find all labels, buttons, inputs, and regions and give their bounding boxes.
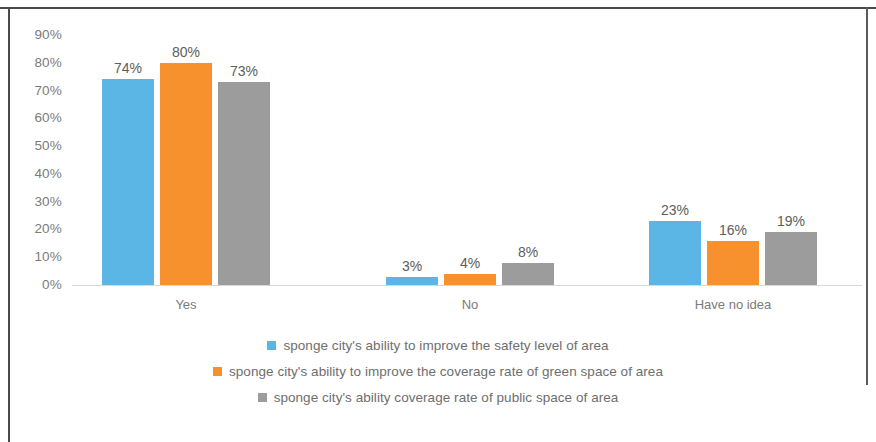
bar-rect: [386, 277, 438, 285]
y-axis-tick-label: 20%: [14, 222, 62, 236]
bar-value-label: 3%: [402, 259, 422, 273]
y-axis-tick-label: 50%: [14, 139, 62, 153]
legend-item[interactable]: sponge city's ability coverage rate of p…: [0, 384, 876, 410]
bar[interactable]: 19%: [765, 232, 817, 285]
bar[interactable]: 80%: [160, 63, 212, 285]
y-axis-tick-label: 70%: [14, 84, 62, 98]
bar[interactable]: 8%: [502, 263, 554, 285]
bar-value-label: 80%: [172, 45, 200, 59]
bar[interactable]: 73%: [218, 82, 270, 285]
bar-rect: [218, 82, 270, 285]
legend-item-inner: sponge city's ability to improve the cov…: [213, 364, 663, 379]
legend-item-inner: sponge city's ability to improve the saf…: [267, 338, 608, 353]
bar-rect: [444, 274, 496, 285]
bar-rect: [160, 63, 212, 285]
bar-rect: [502, 263, 554, 285]
bar-rect: [707, 241, 759, 285]
legend-swatch-icon: [213, 367, 222, 376]
x-axis-category-label: Have no idea: [643, 297, 823, 312]
bar-value-label: 73%: [230, 64, 258, 78]
legend-item-inner: sponge city's ability coverage rate of p…: [258, 390, 619, 405]
y-axis-tick-label: 90%: [14, 28, 62, 42]
legend-item-label: sponge city's ability to improve the saf…: [283, 338, 608, 353]
bar[interactable]: 3%: [386, 277, 438, 285]
legend-item[interactable]: sponge city's ability to improve the cov…: [0, 358, 876, 384]
y-axis-tick-label: 80%: [14, 56, 62, 70]
y-axis: 90%80%70%60%50%40%30%20%10%0%: [14, 0, 62, 330]
bar[interactable]: 16%: [707, 241, 759, 285]
x-axis-category-label: No: [380, 297, 560, 312]
bar-rect: [765, 232, 817, 285]
legend-swatch-icon: [258, 393, 267, 402]
x-axis-category-label: Yes: [96, 297, 276, 312]
legend-item[interactable]: sponge city's ability to improve the saf…: [0, 332, 876, 358]
chart-legend: sponge city's ability to improve the saf…: [0, 332, 876, 410]
legend-item-label: sponge city's ability coverage rate of p…: [274, 390, 619, 405]
legend-swatch-icon: [267, 341, 276, 350]
bar-value-label: 8%: [518, 245, 538, 259]
bar-value-label: 16%: [719, 223, 747, 237]
y-axis-tick-label: 30%: [14, 195, 62, 209]
bar-rect: [102, 79, 154, 285]
x-axis-baseline: [72, 285, 862, 286]
y-axis-tick-label: 10%: [14, 250, 62, 264]
bar[interactable]: 23%: [649, 221, 701, 285]
bar[interactable]: 74%: [102, 79, 154, 285]
bar-value-label: 74%: [114, 61, 142, 75]
plot-area: 90%80%70%60%50%40%30%20%10%0% 74%80%73%3…: [0, 0, 876, 330]
legend-item-label: sponge city's ability to improve the cov…: [229, 364, 663, 379]
bar-value-label: 4%: [460, 256, 480, 270]
chart-page: 90%80%70%60%50%40%30%20%10%0% 74%80%73%3…: [0, 0, 876, 442]
y-axis-tick-label: 0%: [14, 278, 62, 292]
bar-value-label: 23%: [661, 203, 689, 217]
bar-rect: [649, 221, 701, 285]
bar-value-label: 19%: [777, 214, 805, 228]
y-axis-tick-label: 60%: [14, 111, 62, 125]
y-axis-tick-label: 40%: [14, 167, 62, 181]
bar[interactable]: 4%: [444, 274, 496, 285]
